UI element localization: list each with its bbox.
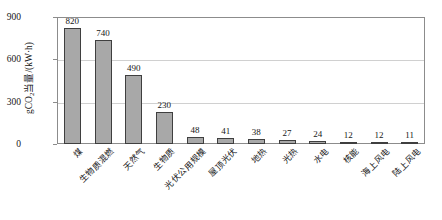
y-tick-label: 900 bbox=[0, 12, 21, 22]
y-tick-label: 0 bbox=[0, 139, 21, 149]
y-axis-title-suffix: 当量/(kW·h) bbox=[24, 42, 34, 93]
bar-slot: 38 bbox=[248, 17, 265, 144]
bars-layer: 8207404902304841382724121211 bbox=[57, 17, 425, 144]
bar-slot: 12 bbox=[371, 17, 388, 144]
bar-value-label: 490 bbox=[115, 63, 152, 73]
bar-slot: 820 bbox=[64, 17, 81, 144]
bar[interactable] bbox=[248, 139, 265, 144]
bar-value-label: 11 bbox=[391, 130, 428, 140]
bar-slot: 27 bbox=[279, 17, 296, 144]
x-axis-labels: 煤生物质混燃天然气生物质光伏公用规模屋顶光伏地热光热水电核能海上风电陆上风电 bbox=[57, 146, 425, 220]
bar-slot: 11 bbox=[401, 17, 418, 144]
bar[interactable] bbox=[95, 40, 112, 144]
bar[interactable] bbox=[401, 142, 418, 144]
bar-slot: 41 bbox=[217, 17, 234, 144]
bar[interactable] bbox=[279, 140, 296, 144]
bar[interactable] bbox=[371, 142, 388, 144]
bar-value-label: 820 bbox=[54, 16, 91, 26]
bar[interactable] bbox=[64, 28, 81, 144]
y-axis-title-prefix: gCO bbox=[24, 96, 34, 114]
bar[interactable] bbox=[217, 138, 234, 144]
bar-slot: 48 bbox=[187, 17, 204, 144]
bar-slot: 490 bbox=[125, 17, 142, 144]
y-axis-title: gCO2当量/(kW·h) bbox=[22, 8, 36, 148]
y-tick-mark bbox=[53, 144, 57, 145]
bar-value-label: 740 bbox=[85, 28, 122, 38]
bar[interactable] bbox=[309, 141, 326, 144]
y-tick-label: 600 bbox=[0, 54, 21, 64]
bar-chart: gCO2当量/(kW·h) 0300600900 820740490230484… bbox=[0, 0, 442, 220]
bar[interactable] bbox=[187, 137, 204, 144]
bar[interactable] bbox=[340, 142, 357, 144]
bar-slot: 12 bbox=[340, 17, 357, 144]
y-axis-title-subscript: 2 bbox=[28, 93, 36, 97]
bar-slot: 24 bbox=[309, 17, 326, 144]
bar[interactable] bbox=[125, 75, 142, 144]
bar-value-label: 230 bbox=[146, 100, 183, 110]
y-tick-label: 300 bbox=[0, 97, 21, 107]
bar-slot: 230 bbox=[156, 17, 173, 144]
bar-slot: 740 bbox=[95, 17, 112, 144]
bar[interactable] bbox=[156, 112, 173, 144]
